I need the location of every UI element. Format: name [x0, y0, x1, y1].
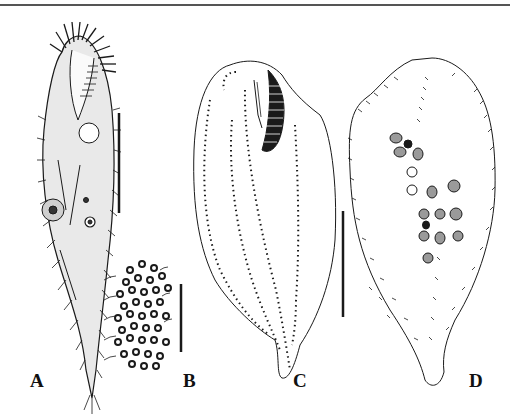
panel-a-drawing — [37, 22, 121, 414]
panel-label-c: C — [293, 371, 307, 390]
panel-c-drawing — [194, 61, 336, 378]
panel-label-a: A — [30, 371, 44, 390]
panel-label-b: B — [183, 371, 196, 390]
panel-d-drawing — [348, 58, 495, 385]
panel-b-drawing — [104, 261, 172, 369]
panel-label-d: D — [469, 371, 483, 390]
figure-drawings — [0, 0, 510, 419]
